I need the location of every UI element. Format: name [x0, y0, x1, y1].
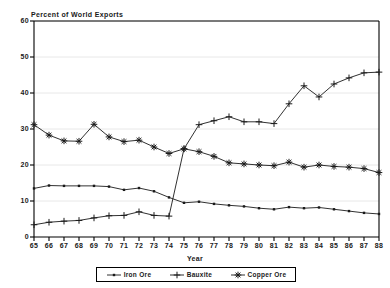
y-tick-label: 10 [11, 197, 29, 204]
series-iron-ore [33, 184, 380, 215]
y-tick-label: 50 [11, 53, 29, 60]
y-tick-label: 0 [11, 233, 29, 240]
chart-container: Percent of World Exports 0102030405060 6… [0, 0, 390, 288]
y-tick-label: 60 [11, 17, 29, 24]
x-tick-label: 88 [370, 242, 388, 249]
y-tick-label: 30 [11, 125, 29, 132]
legend-label: Bauxite [187, 271, 213, 278]
legend-item-iron-ore[interactable]: Iron Ore [106, 270, 152, 280]
plus-marker-icon [169, 270, 185, 280]
y-tick-label: 40 [11, 89, 29, 96]
legend-item-copper-ore[interactable]: Copper Ore [230, 270, 287, 280]
star-marker-icon [230, 270, 246, 280]
legend-label: Copper Ore [248, 271, 287, 278]
legend-label: Iron Ore [124, 271, 152, 278]
legend-item-bauxite[interactable]: Bauxite [169, 270, 213, 280]
y-tick-label: 20 [11, 161, 29, 168]
line-dot-icon [106, 270, 122, 280]
chart-legend: Iron OreBauxiteCopper Ore [96, 267, 296, 282]
x-axis-title: Year [0, 255, 390, 262]
